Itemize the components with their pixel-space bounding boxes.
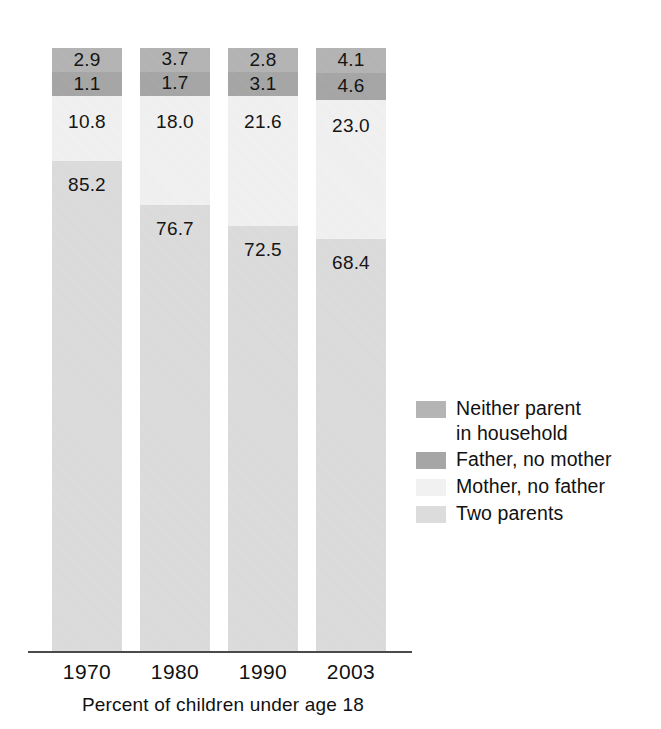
bar-column-1990[interactable]: 2.8 3.1 21.6 72.5 xyxy=(228,48,298,652)
legend-item-father-no-mother[interactable]: Father, no mother xyxy=(416,447,652,473)
legend-swatch-icon xyxy=(416,506,446,523)
bar-segment-neither-parent[interactable]: 3.7 xyxy=(140,48,210,72)
bar-segment-mother-no-father[interactable]: 18.0 xyxy=(140,96,210,205)
bar-value-label: 1.7 xyxy=(161,73,188,92)
bar-column-2003[interactable]: 4.1 4.6 23.0 68.4 xyxy=(316,48,386,652)
bar-segment-neither-parent[interactable]: 4.1 xyxy=(316,48,386,73)
legend-item-neither-parent[interactable]: Neither parent in household xyxy=(416,396,652,446)
x-axis-tick-labels: 1970 1980 1990 2003 xyxy=(28,660,418,690)
bar-value-label: 3.7 xyxy=(161,49,188,68)
bar-value-label: 76.7 xyxy=(156,219,194,238)
legend-swatch-icon xyxy=(416,479,446,496)
bar-segment-father-no-mother[interactable]: 4.6 xyxy=(316,73,386,101)
legend-swatch-icon xyxy=(416,401,446,418)
bar-segment-two-parents[interactable]: 72.5 xyxy=(228,226,298,652)
bar-value-label: 72.5 xyxy=(244,240,282,259)
legend-item-two-parents[interactable]: Two parents xyxy=(416,501,652,527)
bar-segment-two-parents[interactable]: 85.2 xyxy=(52,161,122,652)
bar-value-label: 2.9 xyxy=(73,50,100,69)
stacked-bar-chart: 2.9 1.1 10.8 85.2 3.7 1.7 xyxy=(0,0,661,729)
bar-segment-mother-no-father[interactable]: 23.0 xyxy=(316,100,386,239)
x-axis-tick-1970: 1970 xyxy=(52,660,122,684)
bar-segment-two-parents[interactable]: 68.4 xyxy=(316,239,386,652)
bar-value-label: 85.2 xyxy=(68,175,106,194)
bar-value-label: 4.1 xyxy=(337,50,364,69)
x-axis-tick-1990: 1990 xyxy=(228,660,298,684)
legend-label: Neither parent in household xyxy=(456,396,581,446)
legend-label: Mother, no father xyxy=(456,474,605,499)
x-axis-tick-1980: 1980 xyxy=(140,660,210,684)
bar-segment-two-parents[interactable]: 76.7 xyxy=(140,205,210,652)
legend-label: Father, no mother xyxy=(456,447,612,472)
bar-value-label: 21.6 xyxy=(244,112,282,131)
bar-segment-mother-no-father[interactable]: 21.6 xyxy=(228,96,298,226)
x-axis-tick-2003: 2003 xyxy=(316,660,386,684)
bar-value-label: 68.4 xyxy=(332,253,370,272)
legend-swatch-icon xyxy=(416,452,446,469)
legend-label: Two parents xyxy=(456,501,563,526)
bar-value-label: 10.8 xyxy=(68,112,106,131)
bar-column-1980[interactable]: 3.7 1.7 18.0 76.7 xyxy=(140,48,210,652)
chart-caption: Percent of children under age 18 xyxy=(28,694,418,716)
plot-area: 2.9 1.1 10.8 85.2 3.7 1.7 xyxy=(28,40,418,653)
bar-value-label: 18.0 xyxy=(156,112,194,131)
bar-value-label: 4.6 xyxy=(337,76,364,95)
bars-layer: 2.9 1.1 10.8 85.2 3.7 1.7 xyxy=(28,40,418,652)
bar-segment-father-no-mother[interactable]: 1.1 xyxy=(52,72,122,96)
legend-item-mother-no-father[interactable]: Mother, no father xyxy=(416,474,652,500)
bar-segment-neither-parent[interactable]: 2.8 xyxy=(228,48,298,72)
bar-segment-neither-parent[interactable]: 2.9 xyxy=(52,48,122,72)
bar-segment-father-no-mother[interactable]: 1.7 xyxy=(140,72,210,96)
chart-legend: Neither parent in household Father, no m… xyxy=(416,396,652,528)
bar-value-label: 2.8 xyxy=(249,50,276,69)
bar-column-1970[interactable]: 2.9 1.1 10.8 85.2 xyxy=(52,48,122,652)
bar-segment-mother-no-father[interactable]: 10.8 xyxy=(52,96,122,161)
bar-value-label: 1.1 xyxy=(73,74,100,93)
bar-value-label: 3.1 xyxy=(249,74,276,93)
bar-segment-father-no-mother[interactable]: 3.1 xyxy=(228,72,298,96)
bar-value-label: 23.0 xyxy=(332,116,370,135)
x-axis-line xyxy=(28,651,412,653)
